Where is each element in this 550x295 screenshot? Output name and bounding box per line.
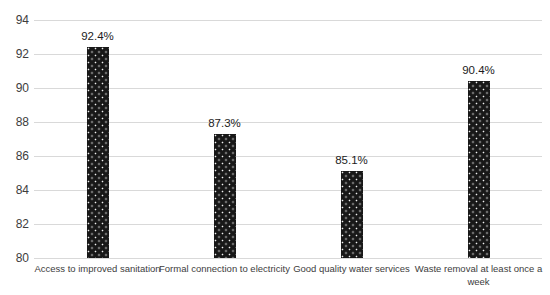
gridline <box>34 88 542 89</box>
y-axis-tick-label: 92 <box>0 47 29 61</box>
category-label: Waste removal at least once a week <box>413 263 545 288</box>
gridline <box>34 20 542 21</box>
y-axis-tick-label: 88 <box>0 115 29 129</box>
plot-area: 949290888684828092.4%Access to improved … <box>0 0 550 295</box>
category-label: Formal connection to electricity <box>159 263 291 276</box>
y-axis-tick-label: 80 <box>0 251 29 265</box>
bar-value-label: 92.4% <box>63 29 133 43</box>
gridline <box>34 122 542 123</box>
y-axis-tick-label: 84 <box>0 183 29 197</box>
bar-value-label: 87.3% <box>190 116 260 130</box>
gridline <box>34 54 542 55</box>
y-axis-tick-label: 90 <box>0 81 29 95</box>
bar[interactable] <box>341 171 363 258</box>
bar-value-label: 90.4% <box>444 63 514 77</box>
gridline <box>34 156 542 157</box>
gridline <box>34 190 542 191</box>
y-axis-tick-label: 94 <box>0 13 29 27</box>
bar[interactable] <box>87 47 109 258</box>
category-label: Access to improved sanitation <box>32 263 164 276</box>
bar[interactable] <box>214 134 236 258</box>
y-axis-tick-label: 86 <box>0 149 29 163</box>
gridline <box>34 224 542 225</box>
bar-value-label: 85.1% <box>317 153 387 167</box>
y-axis-tick-label: 82 <box>0 217 29 231</box>
bar-chart: 949290888684828092.4%Access to improved … <box>0 0 550 295</box>
bar[interactable] <box>468 81 490 258</box>
category-label: Good quality water services <box>286 263 418 276</box>
gridline <box>34 258 542 259</box>
